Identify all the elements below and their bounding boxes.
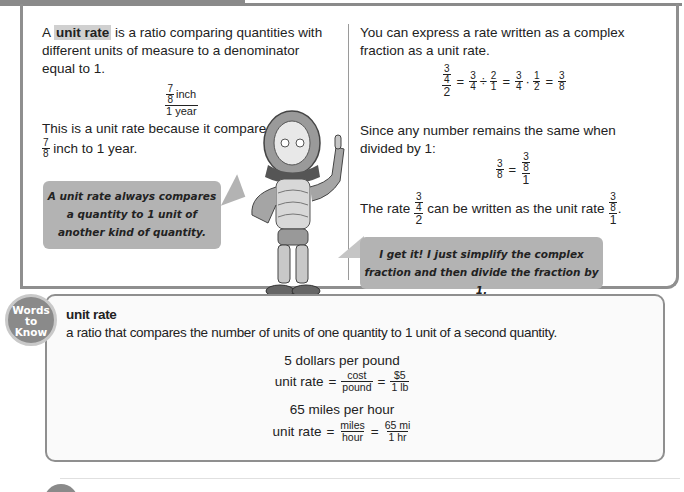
- seven-eighths-fraction: 78: [42, 138, 50, 159]
- example-miles-equation: unit rate = mileshour = 65 mi1 hr: [0, 420, 684, 442]
- next-section-badge: [44, 484, 78, 492]
- complex-fraction-equation: 34 2 = 34 ÷ 21 = 34 · 12 = 38: [442, 64, 566, 98]
- complex-fraction-intro: You can express a rate written as a comp…: [360, 24, 660, 60]
- robot-character-icon: [240, 105, 380, 310]
- vocabulary-definition: a ratio that compares the number of unit…: [66, 325, 557, 340]
- example-dollars-title: 5 dollars per pound: [0, 353, 684, 368]
- vocabulary-term: unit rate: [66, 307, 117, 322]
- speech-bubble-left: A unit rate always compares a quantity t…: [43, 181, 221, 249]
- example-miles-title: 65 miles per hour: [0, 402, 684, 417]
- example-fraction: 78 inch 1 year: [165, 84, 198, 117]
- highlighted-term: unit rate: [54, 25, 111, 40]
- speech-bubble-right: I get it! I just simplify the complex fr…: [360, 237, 603, 289]
- unit-rate-equation: 38 = 38 1: [496, 152, 531, 186]
- example-dollars-equation: unit rate = costpound = $51 lb: [0, 370, 684, 392]
- rate-sentence: The rate 34 2 can be written as the unit…: [360, 192, 670, 226]
- next-section-rule: [60, 478, 680, 479]
- unit-rate-intro: A unit rate is a ratio comparing quantit…: [42, 24, 332, 78]
- words-to-know-badge: Words to Know: [5, 294, 57, 346]
